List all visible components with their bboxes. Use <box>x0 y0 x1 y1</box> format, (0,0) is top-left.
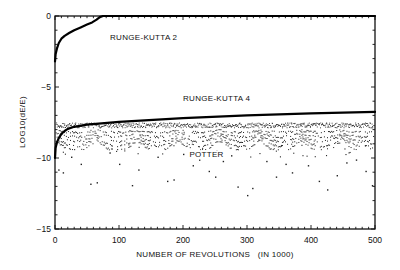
line-runge-kutta-2 <box>55 16 375 61</box>
potter-outlier-point <box>58 169 59 170</box>
potter-outlier-point <box>119 164 120 165</box>
potter-outlier-point <box>63 172 64 173</box>
potter-outlier-point <box>97 182 98 183</box>
potter-outlier-point <box>71 157 72 158</box>
potter-outlier-point <box>276 176 277 177</box>
x-axis-label: NUMBER OF REVOLUTIONS (IN 1000) <box>136 250 294 259</box>
potter-outlier-point <box>173 179 174 180</box>
potter-outlier-point <box>252 188 253 189</box>
potter-outlier-point <box>215 176 216 177</box>
x-tick-label: 200 <box>176 235 190 245</box>
potter-outlier-point <box>193 165 194 166</box>
x-tick-label: 400 <box>304 235 318 245</box>
potter-outlier-point <box>81 164 82 165</box>
series-label: RUNGE-KUTTA 2 <box>110 33 178 42</box>
series-label: RUNGE-KUTTA 4 <box>183 94 251 103</box>
potter-outlier-point <box>138 169 139 170</box>
potter-outlier-point <box>327 189 328 190</box>
y-tick-label: −10 <box>37 153 52 163</box>
series-label: POTTER <box>189 150 223 159</box>
potter-outlier-point <box>109 152 110 153</box>
potter-outlier-point <box>90 184 91 185</box>
potter-outlier-point <box>237 186 238 187</box>
potter-outlier-point <box>356 159 357 160</box>
x-tick-label: 500 <box>368 235 382 245</box>
potter-outlier-point <box>132 185 133 186</box>
potter-outlier-point <box>292 172 293 173</box>
series-lines <box>55 16 375 158</box>
potter-outlier-point <box>346 162 347 163</box>
potter-outlier-point <box>223 161 224 162</box>
x-tick-label: 100 <box>112 235 126 245</box>
x-tick-label: 0 <box>53 235 58 245</box>
potter-outlier-point <box>266 161 267 162</box>
tick-labels: 01002003004005000−5−10−15 <box>37 11 383 245</box>
potter-outlier-point <box>157 157 158 158</box>
potter-outlier-point <box>231 155 232 156</box>
potter-outlier-point <box>167 181 168 182</box>
y-axis-label: LOG10(dE/E) <box>18 96 27 148</box>
potter-outlier-point <box>365 171 366 172</box>
potter-outlier-point <box>319 181 320 182</box>
y-tick-label: −5 <box>41 82 51 92</box>
potter-outlier-point <box>183 154 184 155</box>
potter-outlier-point <box>209 171 210 172</box>
potter-outlier-point <box>247 195 248 196</box>
potter-outlier-point <box>308 165 309 166</box>
x-tick-label: 300 <box>240 235 254 245</box>
y-tick-label: 0 <box>46 11 51 21</box>
potter-scatter-dots <box>56 123 375 197</box>
potter-outlier-point <box>337 175 338 176</box>
y-tick-label: −15 <box>37 224 52 234</box>
energy-error-chart: 01002003004005000−5−10−15 RUNGE-KUTTA 2R… <box>0 0 400 270</box>
potter-outlier-point <box>199 159 200 160</box>
potter-outlier-point <box>285 164 286 165</box>
